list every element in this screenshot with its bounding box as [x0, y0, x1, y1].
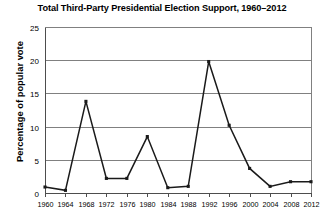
- x-tick-label: 1972: [99, 200, 115, 209]
- data-point-marker: [289, 180, 292, 183]
- x-tick-label: 2008: [284, 200, 300, 209]
- data-point-marker: [309, 180, 312, 183]
- data-point-marker: [166, 186, 169, 189]
- y-tick-labels: 0510152025: [30, 24, 39, 199]
- x-tick-label: 2012: [304, 200, 320, 209]
- data-point-marker: [43, 185, 46, 188]
- grid-lines: [45, 28, 311, 161]
- series-line-third-party-support: [45, 62, 311, 191]
- plot-frame: [46, 28, 312, 194]
- series-markers: [43, 60, 312, 192]
- x-tick-label: 1984: [161, 200, 177, 209]
- data-point-marker: [84, 100, 87, 103]
- data-point-marker: [146, 135, 149, 138]
- y-tick-label: 25: [30, 24, 39, 33]
- x-tick-label: 1964: [58, 200, 74, 209]
- y-tick-label: 0: [35, 190, 40, 199]
- data-point-marker: [64, 189, 67, 192]
- x-tick-label: 1980: [140, 200, 156, 209]
- x-tick-labels: 1960196419681972197619801984198819921996…: [38, 200, 320, 209]
- x-tick-label: 2000: [243, 200, 259, 209]
- y-tick-label: 20: [30, 57, 39, 66]
- y-tick-label: 15: [30, 90, 39, 99]
- x-tick-label: 1996: [222, 200, 238, 209]
- y-tick-label: 10: [30, 124, 39, 133]
- data-point-marker: [187, 185, 190, 188]
- x-tick-label: 2004: [263, 200, 279, 209]
- x-tick-label: 1968: [79, 200, 95, 209]
- line-chart-plot: 0510152025 19601964196819721976198019841…: [0, 0, 324, 220]
- chart-figure: Total Third-Party Presidential Election …: [0, 0, 324, 220]
- x-tick-label: 1992: [202, 200, 218, 209]
- data-point-marker: [125, 177, 128, 180]
- data-point-marker: [269, 185, 272, 188]
- x-tick-label: 1976: [120, 200, 136, 209]
- data-point-marker: [207, 60, 210, 63]
- data-point-marker: [105, 177, 108, 180]
- data-point-marker: [228, 124, 231, 127]
- x-tick-label: 1960: [38, 200, 54, 209]
- data-point-marker: [248, 167, 251, 170]
- x-tick-label: 1988: [181, 200, 197, 209]
- y-tick-label: 5: [35, 157, 40, 166]
